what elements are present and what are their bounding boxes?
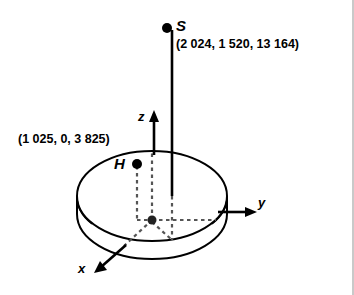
axis-label-y: y [258, 196, 265, 209]
cylinder-right-back-arc [212, 196, 227, 224]
point-s-marker [162, 23, 172, 33]
point-origin-marker [148, 216, 157, 225]
point-label-h: H [114, 156, 125, 171]
point-coordinates-s: (2 024, 1 520, 13 164) [176, 38, 299, 51]
cylinder-left-back-arc [77, 196, 92, 224]
axis-z-arrowhead [149, 110, 159, 122]
point-coordinates-h: (1 025, 0, 3 825) [18, 133, 110, 146]
axis-y-arrowhead [245, 207, 257, 217]
point-h-marker [132, 159, 142, 169]
dashed-x-inside [124, 220, 152, 246]
figure-canvas: S (2 024, 1 520, 13 164) (1 025, 0, 3 82… [0, 0, 354, 295]
point-label-s: S [176, 18, 186, 33]
axis-label-z: z [138, 110, 145, 123]
dashed-origin-to-s-foot [152, 222, 172, 240]
axis-label-x: x [78, 262, 85, 275]
